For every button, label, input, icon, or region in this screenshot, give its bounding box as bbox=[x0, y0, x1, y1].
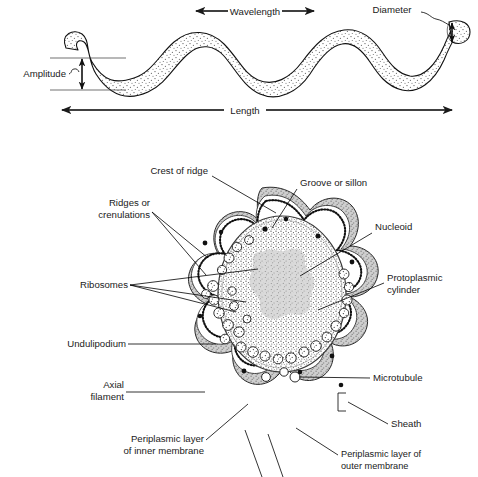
figure-canvas: Wavelength Diameter Amplitude Length bbox=[0, 0, 478, 477]
microtubule-circle-2 bbox=[280, 368, 288, 376]
spirochete-figure: Wavelength Diameter Amplitude Length bbox=[0, 0, 478, 477]
groove-or-sillon-label: Groove or sillon bbox=[300, 177, 367, 188]
undulipodium-label: Undulipodium bbox=[67, 338, 126, 349]
ribosomes-label: Ribosomes bbox=[80, 279, 128, 290]
microtubule-circle-1 bbox=[262, 373, 271, 382]
ridges-label-line2: crenulations bbox=[98, 209, 150, 220]
nucleoid-label: Nucleoid bbox=[375, 221, 412, 232]
periplasmic-inner-label-line2: of inner membrane bbox=[123, 445, 204, 456]
crest-of-ridge-label: Crest of ridge bbox=[150, 165, 208, 176]
axial-filament-label-line1: Axial bbox=[103, 379, 124, 390]
microtubule-label: Microtubule bbox=[373, 372, 423, 383]
amplitude-label: Amplitude bbox=[23, 68, 66, 79]
protoplasmic-cylinder-label-line2: cylinder bbox=[387, 284, 421, 295]
axial-filament-label-line2: filament bbox=[90, 391, 124, 402]
sheath-label: Sheath bbox=[391, 418, 421, 429]
periplasmic-outer-label-line1: Periplasmic layer of bbox=[341, 449, 422, 459]
periplasmic-inner-label-line1: Periplasmic layer bbox=[131, 433, 205, 444]
diameter-label: Diameter bbox=[373, 4, 413, 15]
periplasmic-outer-label-line2: outer membrane bbox=[341, 461, 408, 471]
length-label: Length bbox=[230, 105, 259, 116]
ridges-label-line1: Ridges or bbox=[109, 197, 151, 208]
wavelength-label: Wavelength bbox=[230, 6, 280, 17]
protoplasmic-cylinder-label-line1: Protoplasmic bbox=[387, 272, 443, 283]
